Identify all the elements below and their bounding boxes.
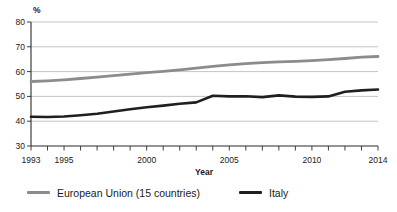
x-axis-tick-labels: 199319952000200520102014 — [22, 155, 388, 165]
y-tick-30: 30 — [16, 141, 26, 151]
y-axis-unit-label: % — [33, 5, 41, 15]
y-tick-80: 80 — [16, 17, 26, 27]
x-tick-2010: 2010 — [302, 155, 321, 165]
employment-rate-line-chart: 304050607080 199319952000200520102014 % … — [0, 0, 397, 212]
data-series-lines — [31, 57, 378, 118]
series-line-italy — [31, 90, 378, 118]
y-tick-40: 40 — [16, 116, 26, 126]
x-tick-1995: 1995 — [55, 155, 74, 165]
axes — [27, 22, 378, 151]
x-tick-1993: 1993 — [22, 155, 41, 165]
legend-label-eu: European Union (15 countries) — [57, 187, 200, 199]
x-tick-2000: 2000 — [137, 155, 156, 165]
x-tick-2014: 2014 — [369, 155, 388, 165]
legend-item-eu: European Union (15 countries) — [27, 185, 200, 200]
eu-line-swatch — [27, 191, 50, 194]
y-axis-tick-labels: 304050607080 — [16, 17, 26, 151]
legend: European Union (15 countries) Italy — [0, 185, 397, 201]
y-tick-60: 60 — [16, 67, 26, 77]
legend-label-italy: Italy — [269, 187, 288, 199]
legend-item-italy: Italy — [239, 185, 288, 200]
series-line-eu — [31, 57, 378, 82]
gridlines — [31, 22, 378, 121]
y-tick-70: 70 — [16, 42, 26, 52]
line-chart-canvas: 304050607080 199319952000200520102014 % … — [0, 0, 397, 212]
x-axis-title: Year — [195, 167, 214, 177]
y-tick-50: 50 — [16, 91, 26, 101]
x-tick-2005: 2005 — [220, 155, 239, 165]
italy-line-swatch — [239, 191, 262, 194]
